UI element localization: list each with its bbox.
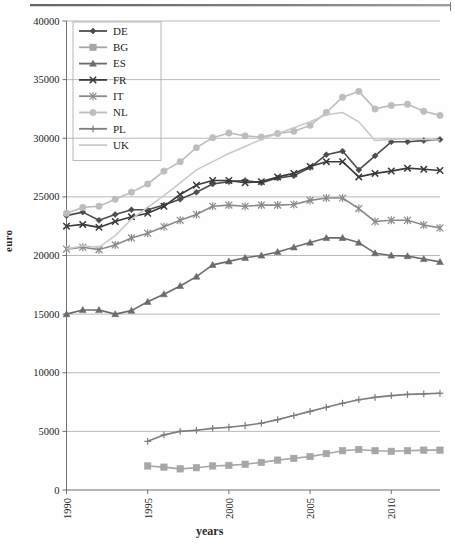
data-point	[226, 130, 232, 136]
data-point	[90, 109, 96, 115]
data-point	[128, 207, 134, 213]
y-tick-label: 35000	[33, 74, 59, 85]
legend-label: ES	[113, 57, 126, 69]
y-tick-label: 30000	[33, 133, 59, 144]
series-BG	[144, 446, 443, 472]
y-tick-label: 40000	[33, 16, 59, 27]
legend-item-ES[interactable]: ES	[79, 57, 126, 69]
y-tick-label: 5000	[39, 426, 60, 437]
data-point	[209, 463, 215, 469]
chart-legend: DEBGESFRITNLPLUK	[73, 22, 161, 160]
data-point	[90, 44, 96, 50]
data-point	[290, 412, 297, 419]
y-tick-label: 0	[54, 485, 59, 496]
legend-item-IT[interactable]: IT	[79, 90, 124, 102]
data-point	[193, 210, 200, 218]
legend-label: NL	[113, 106, 128, 118]
data-point	[177, 283, 184, 289]
data-point	[128, 189, 134, 195]
data-point	[242, 133, 248, 139]
data-point	[63, 210, 69, 216]
data-point	[90, 28, 96, 34]
data-point	[144, 463, 150, 469]
data-point	[356, 88, 362, 94]
data-point	[307, 408, 314, 415]
data-point	[291, 455, 297, 461]
series-FR	[63, 159, 443, 231]
y-axis-ticks: 0500010000150002000025000300003500040000	[33, 16, 66, 496]
y-tick-label: 25000	[33, 191, 59, 202]
legend-item-UK[interactable]: UK	[79, 139, 129, 151]
series-line	[67, 198, 441, 250]
data-point	[405, 139, 411, 145]
legend-item-PL[interactable]: PL	[79, 123, 126, 135]
data-point	[90, 125, 97, 132]
data-point	[404, 448, 410, 454]
x-tick-label: 1990	[62, 498, 73, 519]
data-point	[177, 216, 184, 224]
y-tick-label: 20000	[33, 250, 59, 261]
data-point	[242, 422, 249, 429]
data-point	[339, 400, 346, 407]
legend-item-NL[interactable]: NL	[79, 106, 128, 118]
legend-item-FR[interactable]: FR	[79, 74, 127, 86]
line-chart: 0500010000150002000025000300003500040000…	[0, 0, 455, 545]
series-IT	[63, 194, 443, 254]
data-point	[80, 204, 86, 210]
y-axis-label: euro	[2, 230, 14, 252]
data-point	[437, 390, 444, 397]
data-point	[323, 450, 329, 456]
data-point	[388, 102, 394, 108]
chart-page: 0500010000150002000025000300003500040000…	[0, 0, 455, 545]
data-point	[177, 159, 183, 165]
data-point	[161, 464, 167, 470]
data-point	[258, 420, 265, 427]
data-point	[161, 431, 168, 438]
data-point	[420, 390, 427, 397]
data-point	[225, 424, 232, 431]
series-PL	[144, 390, 443, 445]
data-point	[209, 425, 216, 432]
series-line	[67, 162, 441, 228]
data-point	[209, 134, 215, 140]
data-point	[339, 448, 345, 454]
data-point	[177, 428, 184, 435]
data-point	[242, 461, 248, 467]
data-point	[112, 211, 118, 217]
y-tick-label: 15000	[33, 309, 59, 320]
data-point	[193, 465, 199, 471]
data-point	[356, 446, 362, 452]
data-point	[372, 106, 378, 112]
data-point	[323, 404, 330, 411]
data-point	[388, 448, 394, 454]
data-point	[96, 203, 102, 209]
data-point	[193, 189, 199, 195]
series-line	[67, 139, 441, 220]
data-point	[258, 459, 264, 465]
data-point	[372, 448, 378, 454]
x-tick-label: 2005	[305, 498, 316, 519]
x-axis-label: years	[196, 524, 223, 539]
legend-label: BG	[113, 41, 128, 53]
data-point	[421, 108, 427, 114]
data-point	[274, 457, 280, 463]
data-point	[404, 391, 411, 398]
data-point	[193, 144, 199, 150]
legend-item-BG[interactable]: BG	[79, 41, 128, 53]
data-point	[339, 94, 345, 100]
data-point	[144, 438, 151, 445]
legend-item-DE[interactable]: DE	[79, 25, 128, 37]
data-point	[355, 396, 362, 403]
x-tick-label: 1995	[143, 498, 154, 519]
data-point	[355, 205, 362, 213]
data-point	[226, 462, 232, 468]
data-point	[437, 447, 443, 453]
data-point	[112, 196, 118, 202]
y-tick-label: 10000	[33, 367, 59, 378]
data-point	[274, 416, 281, 423]
data-point	[161, 223, 168, 231]
series-ES	[63, 235, 443, 317]
x-tick-label: 2000	[224, 498, 235, 519]
series-line	[67, 238, 441, 314]
data-point	[437, 112, 443, 118]
